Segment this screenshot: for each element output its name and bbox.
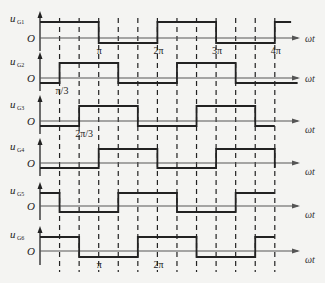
y-axis-arrow-icon — [38, 226, 43, 233]
tick-label: 2π/3 — [75, 128, 93, 139]
y-axis-arrow-icon — [38, 95, 43, 102]
gate-signal-diagram: uG1OωtuG2OωtuG3OωtuG4OωtuG5OωtuG6Oωtπ2π3… — [0, 0, 325, 283]
origin-label: O — [27, 72, 35, 84]
x-axis-arrow-icon — [292, 249, 300, 254]
signal-label: u — [10, 228, 16, 240]
signal-label: u — [10, 184, 16, 196]
x-axis-label: ωt — [305, 254, 315, 265]
x-axis-arrow-icon — [292, 204, 300, 209]
y-axis-arrow-icon — [38, 11, 43, 18]
origin-label: O — [27, 245, 35, 257]
x-axis-arrow-icon — [292, 36, 300, 41]
signal-subscript: G6 — [17, 235, 24, 241]
x-axis-label: ωt — [305, 209, 315, 220]
x-axis-label: ωt — [305, 166, 315, 177]
signal-subscript: G2 — [17, 62, 24, 68]
signal-label: u — [10, 55, 16, 67]
waveform-line — [40, 149, 275, 168]
signal-g5: uG5Oωt — [10, 182, 315, 220]
signal-subscript: G4 — [17, 147, 24, 153]
tick-label: 3π — [212, 45, 222, 56]
x-axis-label: ωt — [305, 73, 315, 84]
signal-label: u — [10, 98, 16, 110]
signal-subscript: G3 — [17, 105, 24, 111]
origin-label: O — [27, 157, 35, 169]
origin-label: O — [27, 32, 35, 44]
waveform-figure: uG1OωtuG2OωtuG3OωtuG4OωtuG5OωtuG6Oωtπ2π3… — [0, 0, 325, 283]
signal-label: u — [10, 12, 16, 24]
tick-label: 4π — [271, 45, 281, 56]
signal-g4: uG4Oωt — [10, 138, 315, 177]
waveform-line — [40, 22, 291, 43]
tick-label: π — [97, 259, 102, 270]
origin-label: O — [27, 115, 35, 127]
signal-label: u — [10, 140, 16, 152]
tick-label: π — [97, 45, 102, 56]
x-axis-label: ωt — [305, 124, 315, 135]
signal-subscript: G1 — [17, 19, 24, 25]
tick-label: 2π — [153, 45, 163, 56]
y-axis-arrow-icon — [38, 52, 43, 59]
y-axis-arrow-icon — [38, 182, 43, 189]
signal-g3: uG3Oωt — [10, 95, 315, 135]
origin-label: O — [27, 200, 35, 212]
signal-subscript: G5 — [17, 191, 24, 197]
y-axis-arrow-icon — [38, 138, 43, 145]
tick-label: π/3 — [56, 85, 69, 96]
x-axis-arrow-icon — [292, 161, 300, 166]
tick-label: 2π — [153, 259, 163, 270]
x-axis-label: ωt — [305, 33, 315, 44]
x-axis-arrow-icon — [292, 119, 300, 124]
x-axis-arrow-icon — [292, 76, 300, 81]
dashed-gridlines — [60, 18, 275, 272]
